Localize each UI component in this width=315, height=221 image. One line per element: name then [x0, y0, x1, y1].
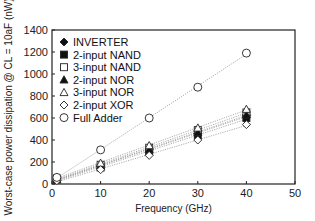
x-tick-label: 40 [240, 187, 252, 199]
y-tick-label: 200 [30, 156, 48, 168]
legend-label: 2-input NAND [73, 49, 141, 61]
y-tick-label: 1400 [24, 24, 48, 36]
x-tick-label: 0 [49, 187, 55, 199]
legend-label: 2-input NOR [73, 74, 134, 86]
y-tick-label: 0 [42, 178, 48, 190]
legend-label: INVERTER [73, 36, 128, 48]
x-tick-label: 20 [143, 187, 155, 199]
legend-label: 2-input XOR [73, 99, 134, 111]
legend-item: 2-input NAND [61, 49, 141, 61]
y-tick-label: 1200 [24, 46, 48, 58]
legend-label: 3-input NAND [73, 61, 141, 73]
data-point [53, 173, 61, 181]
x-axis-title: Frequency (GHz) [135, 203, 212, 214]
power-vs-frequency-chart: 010203040500200400600800100012001400 INV… [0, 0, 315, 221]
data-point [242, 49, 250, 57]
y-tick-label: 1000 [24, 68, 48, 80]
y-tick-label: 800 [30, 90, 48, 102]
legend-label: 3-input NOR [73, 86, 134, 98]
legend-item: 3-input NAND [61, 61, 141, 73]
x-tick-label: 50 [289, 187, 301, 199]
data-point [145, 114, 153, 122]
y-tick-label: 400 [30, 134, 48, 146]
y-axis-title: Worst-case power dissipation @ CL = 10aF… [3, 0, 14, 216]
legend: INVERTER2-input NAND3-input NAND2-input … [60, 36, 141, 124]
legend-label: Full Adder [73, 112, 123, 124]
x-tick-label: 10 [94, 187, 106, 199]
x-tick-label: 30 [192, 187, 204, 199]
y-tick-label: 600 [30, 112, 48, 124]
data-point [97, 146, 105, 154]
data-point [194, 83, 202, 91]
